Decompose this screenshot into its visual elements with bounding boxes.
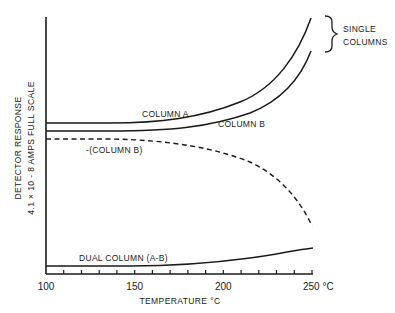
x-tick-label-150: 150 <box>126 281 143 292</box>
label-column-b: COLUMN B <box>218 119 265 129</box>
label-column-a: COLUMN A <box>142 109 189 119</box>
label-neg-column-b: -(COLUMN B) <box>86 145 143 155</box>
y-axis-title-line2: 4.1 × 10 - 8 AMPS FULL SCALE <box>26 81 36 215</box>
label-columns: COLUMNS <box>343 37 388 47</box>
chart: 100 150 200 250 °C TEMPERATURE °C DETECT… <box>0 0 395 313</box>
brace-icon <box>325 16 337 52</box>
x-tick-label-100: 100 <box>38 281 55 292</box>
series-column-a <box>46 18 311 123</box>
x-axis-title: TEMPERATURE °C <box>139 296 220 306</box>
label-single: SINGLE <box>343 24 376 34</box>
y-axis-title-line1: DETECTOR RESPONSE <box>13 97 23 200</box>
x-tick-label-200: 200 <box>215 281 232 292</box>
label-dual-column: DUAL COLUMN (A-B) <box>79 253 168 263</box>
x-tick-label-250: 250 °C <box>303 281 334 292</box>
